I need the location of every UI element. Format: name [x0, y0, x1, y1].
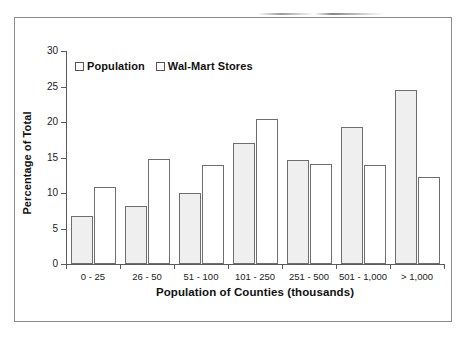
y-tick — [61, 229, 67, 230]
bar-population-1 — [125, 206, 147, 264]
x-tick — [228, 264, 229, 269]
x-tick-label-4: 251 - 500 — [282, 271, 336, 282]
chart-legend: Population Wal-Mart Stores — [75, 60, 253, 72]
x-tick-label-5: 501 - 1,000 — [336, 271, 390, 282]
x-axis-line — [66, 264, 444, 265]
y-tick-label: 30 — [12, 46, 58, 56]
y-tick — [61, 87, 67, 88]
bar-walmart-stores-1 — [148, 159, 170, 264]
y-tick-label-text: 0 — [16, 259, 58, 269]
bar-walmart-stores-0 — [94, 187, 116, 264]
x-axis-title: Population of Counties (thousands) — [66, 286, 444, 298]
x-tick-label-2: 51 - 100 — [174, 271, 228, 282]
bar-population-4 — [287, 160, 309, 264]
x-tick-label-0: 0 - 25 — [66, 271, 120, 282]
bar-walmart-stores-2 — [202, 165, 224, 264]
legend-label-population: Population — [87, 60, 145, 72]
x-tick — [120, 264, 121, 269]
bar-walmart-stores-4 — [310, 164, 332, 264]
y-axis-title: Percentage of Total — [21, 98, 33, 228]
x-tick — [174, 264, 175, 269]
x-tick-label-1: 26 - 50 — [120, 271, 174, 282]
y-tick-label: 15 — [12, 153, 58, 163]
bar-population-5 — [341, 127, 363, 264]
y-tick-label-text: 30 — [16, 46, 58, 56]
y-tick-label-text: 25 — [16, 82, 58, 92]
legend-entry-population: Population — [75, 60, 145, 72]
x-tick-label-3: 101 - 250 — [228, 271, 282, 282]
x-tick — [66, 264, 67, 269]
y-tick-label: 0 — [12, 259, 58, 269]
bar-walmart-stores-6 — [418, 177, 440, 264]
y-tick-label: 10 — [12, 188, 58, 198]
y-tick — [61, 122, 67, 123]
legend-swatch-walmart-stores — [156, 62, 165, 71]
bar-population-3 — [233, 143, 255, 264]
x-tick — [282, 264, 283, 269]
bar-chart: 051015202530 0 - 2526 - 5051 - 100101 - … — [0, 0, 466, 338]
legend-label-walmart-stores: Wal-Mart Stores — [168, 60, 253, 72]
bar-population-0 — [71, 216, 93, 264]
legend-entry-walmart-stores: Wal-Mart Stores — [156, 60, 253, 72]
bar-walmart-stores-5 — [364, 165, 386, 264]
y-tick — [61, 158, 67, 159]
x-tick-label-6: > 1,000 — [390, 271, 444, 282]
y-tick-label: 20 — [12, 117, 58, 127]
bar-population-2 — [179, 193, 201, 264]
legend-swatch-population — [75, 62, 84, 71]
y-tick-label: 25 — [12, 82, 58, 92]
x-tick — [336, 264, 337, 269]
y-tick — [61, 193, 67, 194]
bar-population-6 — [395, 90, 417, 264]
x-tick — [444, 264, 445, 269]
y-tick — [61, 51, 67, 52]
x-tick — [390, 264, 391, 269]
bar-walmart-stores-3 — [256, 119, 278, 264]
y-tick-label: 5 — [12, 224, 58, 234]
